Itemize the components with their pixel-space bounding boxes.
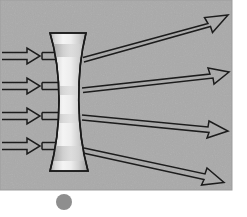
figure-container — [0, 0, 247, 217]
lens-ray-diagram — [0, 0, 247, 217]
gray-dot — [56, 194, 72, 210]
gray-panel — [0, 0, 232, 190]
